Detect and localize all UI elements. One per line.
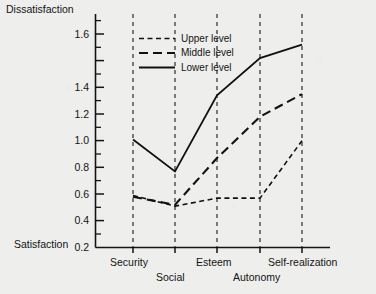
x-category-label-social: Social xyxy=(156,271,185,283)
legend-swatches xyxy=(139,39,175,68)
x-ticks xyxy=(133,248,302,254)
legend-label-upper-level: Upper level xyxy=(181,33,232,44)
y-tick-label-1-4: 1.4 xyxy=(59,81,89,93)
x-category-label-esteem: Esteem xyxy=(196,256,232,268)
y-tick-label-0-4: 0.4 xyxy=(59,214,89,226)
y-axis-bottom-label: Satisfaction xyxy=(14,238,68,250)
y-tick-label-1-6: 1.6 xyxy=(59,28,89,40)
y-tick-label-1-2: 1.2 xyxy=(59,108,89,120)
y-tick-label-1-0: 1.0 xyxy=(59,134,89,146)
y-minor-ticks xyxy=(96,21,102,234)
legend-label-lower-level: Lower level xyxy=(181,62,232,73)
y-axis-top-label: Dissatisfaction xyxy=(6,3,74,15)
y-tick-label-0-8: 0.8 xyxy=(59,161,89,173)
legend-label-middle-level: Middle level xyxy=(181,47,234,58)
x-category-label-autonomy: Autonomy xyxy=(233,271,280,283)
x-category-label-security: Security xyxy=(110,256,148,268)
y-tick-label-0-6: 0.6 xyxy=(59,188,89,200)
x-category-label-self-realization: Self-realization xyxy=(268,256,337,268)
